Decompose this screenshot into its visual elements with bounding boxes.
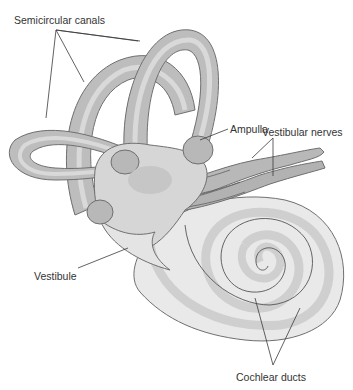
- leader-vestibule: [78, 248, 128, 268]
- leader-semicircular-canals-2: [56, 30, 84, 82]
- label-vestibule: Vestibule: [34, 270, 77, 282]
- leader-semicircular-canals-3: [56, 30, 140, 41]
- label-cochlear-ducts: Cochlear ducts: [236, 371, 306, 383]
- ampulla-anterior: [183, 136, 213, 164]
- label-vestibular-nerves: Vestibular nerves: [262, 126, 343, 138]
- label-semicircular-canals: Semicircular canals: [14, 14, 105, 26]
- inner-ear-diagram: Semicircular canals Ampulla Vestibular n…: [0, 0, 353, 390]
- ampulla-posterior: [87, 200, 113, 224]
- utricle: [128, 166, 172, 194]
- leader-vestibular-nerve-1: [252, 138, 273, 158]
